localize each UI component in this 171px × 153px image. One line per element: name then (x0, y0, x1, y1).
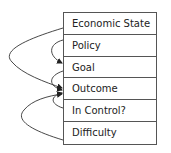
row-in-control: In Control? (64, 100, 156, 122)
row-difficulty: Difficulty (64, 122, 156, 144)
row-economic-state: Economic State (64, 13, 156, 35)
arrow-policy-to-goal (52, 40, 63, 63)
arrow-difficulty-to-outcome (21, 94, 63, 140)
row-policy: Policy (64, 35, 156, 57)
row-outcome: Outcome (64, 78, 156, 100)
arrow-goal-to-outcome (52, 71, 63, 90)
row-goal: Goal (64, 57, 156, 79)
attribute-stack: Economic State Policy Goal Outcome In Co… (63, 12, 157, 145)
